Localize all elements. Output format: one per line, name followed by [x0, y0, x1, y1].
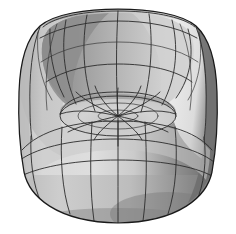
chair-3d-model: [0, 0, 236, 234]
chair-render-canvas: [0, 0, 236, 234]
